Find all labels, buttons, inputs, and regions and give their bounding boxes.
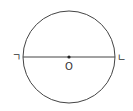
circle-diagram: ㄱ ㄴ O <box>0 0 133 111</box>
label-center: O <box>65 61 73 72</box>
label-right-endpoint: ㄴ <box>117 52 126 63</box>
label-left-endpoint: ㄱ <box>12 52 21 63</box>
center-point <box>67 55 70 58</box>
